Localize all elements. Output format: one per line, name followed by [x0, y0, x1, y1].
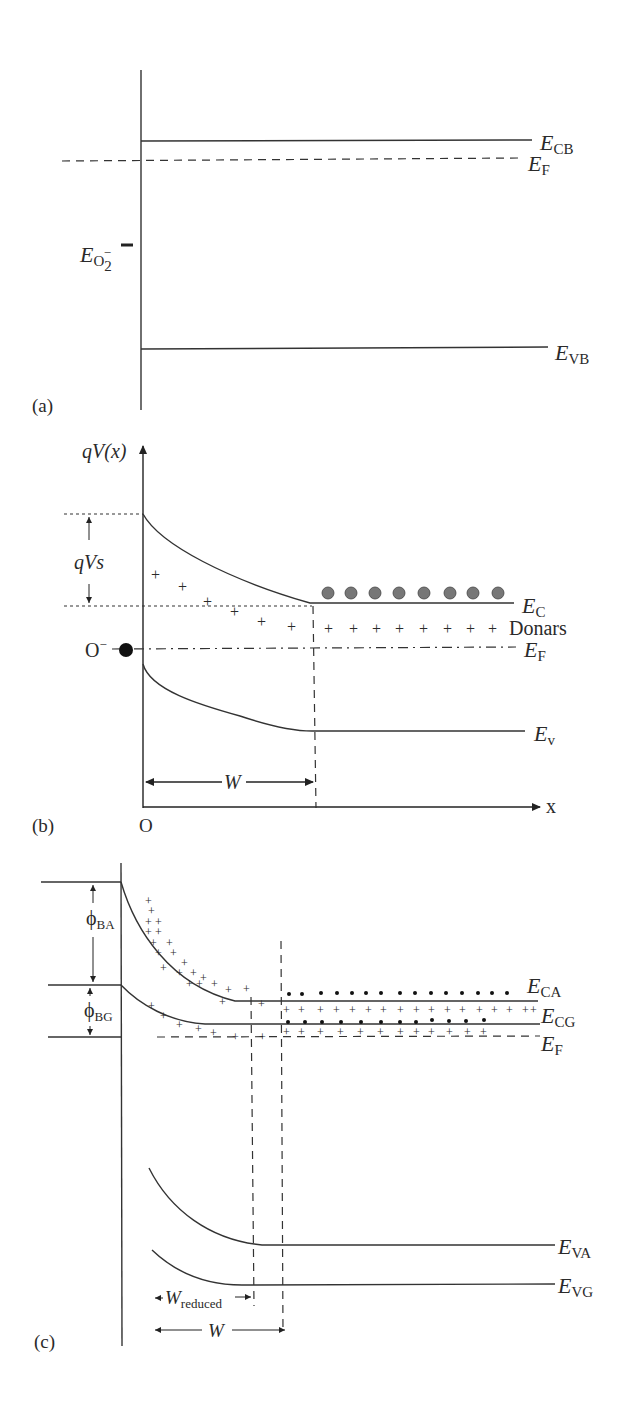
svg-text:+: + [151, 566, 160, 583]
svg-text:+: + [365, 1003, 372, 1017]
svg-text:+: + [372, 620, 381, 637]
electrons-gas [286, 1018, 486, 1024]
svg-text:+: + [170, 946, 177, 960]
svg-text:+: + [258, 997, 265, 1011]
svg-text:+: + [443, 620, 452, 637]
svg-text:+: + [176, 966, 183, 980]
svg-text:+: + [176, 1018, 183, 1032]
svg-text:+: + [349, 620, 358, 637]
qvs-label: qVs [74, 551, 104, 574]
svg-text:+: + [324, 620, 333, 637]
panel-label-a: (a) [32, 395, 53, 417]
depletion-width-label: W [224, 771, 243, 793]
svg-text:+: + [225, 983, 232, 997]
svg-text:+: + [380, 1003, 387, 1017]
svg-text:+: + [186, 977, 193, 991]
svg-text:+: + [466, 620, 475, 637]
phi-bg-label: ϕBG [84, 999, 113, 1024]
svg-text:+: + [203, 593, 212, 610]
origin-label: O [139, 815, 153, 836]
donors-label: Donars [509, 617, 567, 639]
svg-text:+: + [298, 1003, 305, 1017]
label-evg: EVG [557, 1273, 593, 1300]
svg-text:+: + [419, 620, 428, 637]
panel-c: ϕBA ϕBG ++ ++ ++ ++ ++ + +++ + +++ ++++ [34, 863, 593, 1353]
panel-label-c: (c) [34, 1331, 55, 1353]
svg-text:+: + [211, 977, 218, 991]
svg-text:+: + [160, 1009, 167, 1023]
label-eca: ECA [526, 973, 561, 1000]
panel-a: ECB EF EVB EO2− (a) [32, 70, 589, 417]
svg-text:+: + [259, 1030, 266, 1044]
svg-text:+: + [395, 620, 404, 637]
fermi-level-line [62, 158, 520, 161]
svg-text:+: + [210, 1026, 217, 1040]
w-label: W [208, 1320, 226, 1341]
label-eo2: EO2− [79, 242, 112, 274]
svg-text:+: + [491, 1003, 498, 1017]
donor-charges-bulk-air: ++++ ++++ ++++ +++++ [283, 1003, 537, 1017]
y-axis-label: qV(x) [82, 440, 127, 463]
phi-ba-label: ϕBA [86, 907, 115, 932]
label-ecb: ECB [539, 130, 573, 157]
label-ev: Ev [533, 721, 555, 748]
valence-band-gas-curve [152, 1250, 555, 1285]
svg-text:+: + [160, 961, 167, 975]
label-ec: EC [521, 593, 545, 620]
label-ef: EF [527, 151, 550, 178]
svg-text:+: + [243, 982, 250, 996]
conduction-band-line [141, 140, 532, 141]
x-axis-label: x [546, 795, 556, 817]
svg-text:+: + [219, 995, 226, 1009]
electrons [322, 587, 504, 599]
band-diagram-figure: ECB EF EVB EO2− (a) qV(x) x O (b) qVs [0, 0, 624, 1406]
svg-text:+: + [397, 1025, 404, 1039]
svg-text:+: + [444, 1003, 451, 1017]
donor-charges: + + + + + + + + + + + + + + [151, 566, 497, 637]
electrons-air [287, 991, 509, 996]
label-ecg: ECG [540, 1003, 575, 1030]
svg-text:+: + [317, 1025, 324, 1039]
reduced-depletion-boundary [251, 997, 254, 1306]
svg-text:+: + [428, 1025, 435, 1039]
svg-text:+: + [446, 1025, 453, 1039]
depletion-boundary [281, 941, 283, 1332]
svg-text:+: + [155, 946, 162, 960]
panel-b: qV(x) x O (b) qVs + + + + + + + + + + [32, 440, 567, 837]
valence-band-line [141, 347, 548, 349]
svg-text:+: + [480, 1025, 487, 1039]
svg-text:+: + [522, 1003, 529, 1017]
svg-text:+: + [530, 1003, 537, 1017]
svg-text:+: + [283, 1025, 290, 1039]
svg-text:+: + [298, 1025, 305, 1039]
svg-text:+: + [148, 999, 155, 1013]
conduction-band-air-curve [121, 882, 538, 1001]
svg-text:+: + [178, 578, 187, 595]
panel-label-b: (b) [32, 815, 54, 837]
depletion-boundary-line [313, 606, 316, 808]
oxygen-ion-label: O− [85, 637, 107, 661]
svg-text:+: + [464, 1025, 471, 1039]
svg-text:+: + [287, 618, 296, 635]
svg-text:+: + [428, 1003, 435, 1017]
svg-text:+: + [196, 977, 203, 991]
donor-charges-depletion: ++ ++ ++ ++ ++ + +++ + +++ ++++ +++ ++++ [145, 894, 266, 1044]
svg-text:+: + [413, 1025, 420, 1039]
label-eva: EVA [557, 1234, 591, 1261]
valence-band-air-curve [149, 1168, 555, 1245]
svg-text:+: + [476, 1003, 483, 1017]
svg-text:+: + [283, 1003, 290, 1017]
svg-text:+: + [397, 1003, 404, 1017]
svg-text:+: + [459, 1003, 466, 1017]
svg-text:+: + [232, 1030, 239, 1044]
label-evb: EVB [554, 340, 589, 367]
svg-text:+: + [317, 1003, 324, 1017]
svg-text:+: + [377, 1025, 384, 1039]
svg-text:+: + [333, 1003, 340, 1017]
w-reduced-label: Wreduced [165, 1287, 222, 1311]
svg-text:+: + [357, 1025, 364, 1039]
svg-text:+: + [337, 1025, 344, 1039]
label-ef: EF [523, 637, 546, 664]
valence-band-curve [143, 664, 525, 731]
svg-text:+: + [413, 1003, 420, 1017]
